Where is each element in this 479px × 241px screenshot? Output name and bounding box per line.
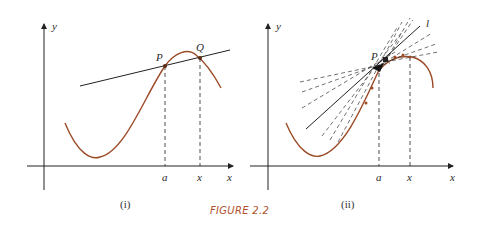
- tick-x-label: x: [196, 171, 202, 183]
- tick-a-label: a: [162, 171, 168, 183]
- tangent-l-label: l: [426, 17, 429, 29]
- point-Q: [198, 56, 202, 60]
- x-axis-label: x: [226, 171, 232, 183]
- curve-point: [394, 56, 397, 59]
- Q-label: Q: [196, 41, 204, 53]
- curve: [65, 52, 221, 158]
- curve-point: [409, 56, 412, 59]
- curve-point: [365, 102, 368, 105]
- tangent-line-l: [306, 26, 420, 129]
- y-axis-label: y: [275, 20, 281, 32]
- panel-i: y P Q a x x (i): [27, 20, 233, 211]
- figure-caption: FIGURE 2.2: [0, 205, 479, 216]
- point-P: [163, 64, 167, 68]
- P-label: P: [370, 50, 378, 62]
- curve-point: [371, 87, 374, 90]
- x-axis-label: x: [449, 171, 455, 183]
- secant-line: [80, 50, 230, 86]
- point-near-P: [383, 57, 388, 62]
- secant-lines: [300, 18, 438, 142]
- curve-point: [402, 54, 405, 57]
- tick-x-label: x: [406, 171, 412, 183]
- curve: [286, 57, 433, 157]
- tick-a-label: a: [376, 171, 382, 183]
- P-label: P: [155, 51, 163, 63]
- y-axis-label: y: [51, 20, 57, 32]
- panel-ii: y P l a x x (ii): [250, 17, 455, 211]
